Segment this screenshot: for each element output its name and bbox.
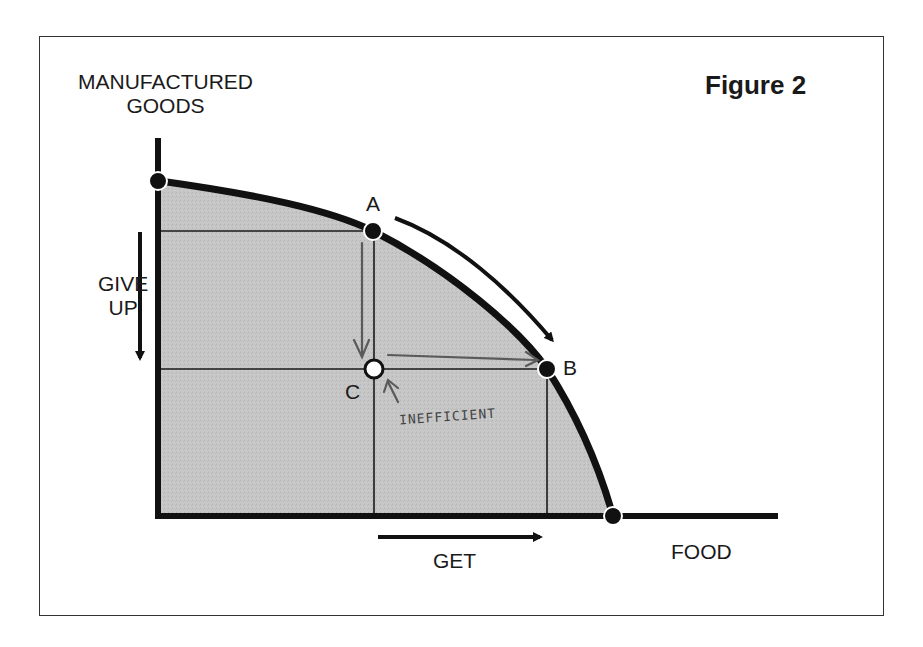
y-axis-label-line2: GOODS: [78, 95, 253, 116]
point-b-label: B: [563, 357, 577, 378]
give-up-label: GIVE UP: [98, 273, 148, 318]
figure-title: Figure 2: [705, 72, 806, 98]
x-intercept-point: [604, 507, 622, 525]
get-label: GET: [433, 550, 476, 571]
y-intercept-point: [149, 172, 167, 190]
x-axis-label: FOOD: [671, 541, 732, 562]
point-c-label: C: [345, 381, 360, 402]
y-axis-label-line1: MANUFACTURED: [78, 71, 253, 92]
point-b: [538, 360, 556, 378]
point-c: [365, 360, 383, 378]
y-axis-label: MANUFACTURED GOODS: [78, 71, 253, 116]
point-a-label: A: [366, 193, 380, 214]
give-up-line1: GIVE: [98, 273, 148, 294]
point-a: [364, 222, 382, 240]
give-up-line2: UP: [98, 297, 148, 318]
